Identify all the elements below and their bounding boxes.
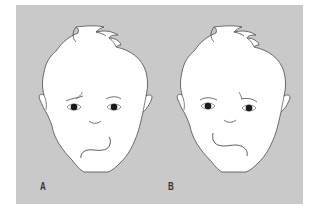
faces-illustration xyxy=(0,0,317,211)
panel-label-a: A xyxy=(40,181,46,192)
face-a xyxy=(39,26,152,172)
panel-label-b: B xyxy=(168,181,174,192)
face-b-head-outline xyxy=(177,26,290,172)
face-b xyxy=(177,26,290,172)
